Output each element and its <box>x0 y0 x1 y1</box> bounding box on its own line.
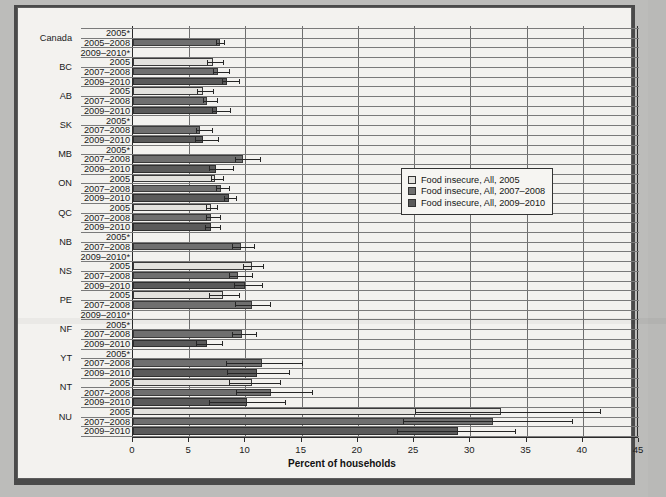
error-bar-cap-lower <box>209 166 210 171</box>
region-label-canada: Canada <box>24 33 72 43</box>
error-bar <box>229 383 281 384</box>
error-bar-cap-lower <box>205 225 206 230</box>
x-tick-40 <box>582 438 583 442</box>
error-bar-cap-lower <box>195 137 196 142</box>
row-separator <box>81 339 639 340</box>
bar <box>133 175 215 183</box>
period-label: 2007–2008 <box>72 154 130 164</box>
error-bar <box>196 130 212 131</box>
bar <box>133 194 229 202</box>
error-bar <box>403 421 572 422</box>
error-bar <box>415 412 599 413</box>
bar <box>133 282 245 290</box>
error-bar <box>205 227 220 228</box>
x-tick-label-20: 20 <box>342 444 372 455</box>
period-label: 2007–2008 <box>72 329 130 339</box>
error-bar-cap-upper <box>289 370 290 375</box>
period-label: 2009–2010 <box>72 135 130 145</box>
error-bar <box>236 392 311 393</box>
period-label: 2009–2010 <box>72 77 130 87</box>
error-bar <box>222 81 239 82</box>
x-tick-label-30: 30 <box>454 444 484 455</box>
group-separator <box>81 86 639 87</box>
bar <box>133 126 200 134</box>
error-bar <box>397 431 515 432</box>
x-tick-label-0: 0 <box>117 444 147 455</box>
figure-panel: 051015202530354045 2005*2005–20082009–20… <box>17 7 632 479</box>
period-label: 2005 <box>72 378 130 388</box>
group-separator <box>81 349 639 350</box>
bar <box>133 262 252 270</box>
error-bar-cap-upper <box>256 332 257 337</box>
error-bar-cap-lower <box>397 429 398 434</box>
error-bar-cap-upper <box>213 89 214 94</box>
row-separator <box>81 368 639 369</box>
group-separator <box>81 261 639 262</box>
error-bar-cap-lower <box>229 380 230 385</box>
period-label: 2005 <box>72 57 130 67</box>
period-label: 2009–2010 <box>72 222 130 232</box>
bar <box>133 301 252 309</box>
period-label: 2009–2010* <box>72 48 130 58</box>
error-bar-cap-lower <box>236 390 237 395</box>
chart-legend: Food insecure, All, 2005Food insecure, A… <box>401 168 553 215</box>
row-separator <box>81 300 639 301</box>
error-bar <box>226 363 301 364</box>
period-label: 2005 <box>72 174 130 184</box>
error-bar <box>235 305 270 306</box>
group-separator <box>81 319 639 320</box>
period-label: 2005* <box>72 232 130 242</box>
bar <box>133 214 211 222</box>
error-bar-cap-lower <box>234 283 235 288</box>
error-bar-cap-lower <box>224 196 225 201</box>
period-label: 2007–2008 <box>72 184 130 194</box>
row-separator <box>81 329 639 330</box>
region-label-bc: BC <box>24 62 72 72</box>
period-label: 2005* <box>72 145 130 155</box>
period-label: 2005 <box>72 86 130 96</box>
error-bar <box>216 188 228 189</box>
error-bar-cap-upper <box>262 283 263 288</box>
bar <box>133 272 238 280</box>
period-label: 2005 <box>72 407 130 417</box>
x-tick-25 <box>413 438 414 442</box>
group-separator <box>81 232 639 233</box>
period-label: 2007–2008 <box>72 242 130 252</box>
error-bar <box>211 179 223 180</box>
row-separator <box>81 106 639 107</box>
error-bar-cap-upper <box>572 419 573 424</box>
x-tick-label-45: 45 <box>623 444 653 455</box>
period-label: 2009–2010 <box>72 426 130 436</box>
region-label-ab: AB <box>24 91 72 101</box>
error-bar-cap-upper <box>212 128 213 133</box>
error-bar-cap-upper <box>302 361 303 366</box>
error-bar-cap-lower <box>206 205 207 210</box>
error-bar <box>229 276 253 277</box>
error-bar <box>243 266 263 267</box>
bar <box>133 68 218 76</box>
error-bar-cap-upper <box>285 400 286 405</box>
error-bar-cap-upper <box>254 244 255 249</box>
row-separator <box>81 183 639 184</box>
bar <box>133 87 203 95</box>
error-bar-cap-lower <box>197 89 198 94</box>
x-tick-15 <box>301 438 302 442</box>
x-tick-label-5: 5 <box>173 444 203 455</box>
error-bar-cap-upper <box>233 166 234 171</box>
row-separator <box>81 164 639 165</box>
group-separator <box>81 407 639 408</box>
row-separator <box>81 387 639 388</box>
period-label: 2007–2008 <box>72 96 130 106</box>
row-separator <box>81 96 639 97</box>
row-separator <box>81 222 639 223</box>
row-separator <box>81 154 639 155</box>
error-bar-cap-upper <box>252 273 253 278</box>
bar <box>133 97 207 105</box>
error-bar <box>209 169 233 170</box>
legend-swatch-1 <box>408 187 416 195</box>
row-separator <box>81 135 639 136</box>
period-label: 2009–2010 <box>72 106 130 116</box>
region-label-nt: NT <box>24 382 72 392</box>
period-label: 2007–2008 <box>72 213 130 223</box>
